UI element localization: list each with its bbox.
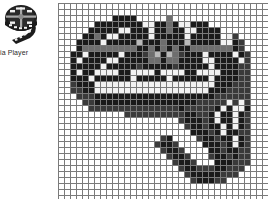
screenshot-root: ia Player (0, 0, 276, 208)
desktop-icon-media-player[interactable]: ia Player (0, 0, 56, 70)
pixel-zoom-grid[interactable] (58, 3, 268, 199)
pixel-grid-canvas[interactable] (58, 3, 268, 199)
desktop-icon-label: ia Player (0, 48, 56, 57)
film-reel-icon (2, 2, 44, 46)
